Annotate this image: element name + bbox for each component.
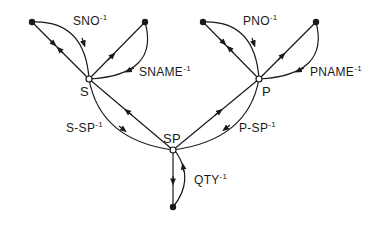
node-pno-value [200,19,206,25]
label-p-sp-inverse: P-SP-1 [239,121,276,134]
label-pname-inverse: PNAME-1 [310,65,362,78]
edge-s-sname-straight [89,22,145,79]
label-qty-inverse: QTY-1 [194,173,227,186]
node-pname-value [313,19,319,25]
edge-p-pname-straight [259,22,316,79]
node-sno-value [29,19,35,25]
label-pno-inverse: PNO-1 [243,14,278,27]
node-s [86,76,92,82]
label-sname-inverse: SNAME-1 [139,65,191,78]
edge-qty-inverse [173,152,185,207]
node-sp [170,147,176,153]
graph-canvas [0,0,383,227]
edge-p-pno-straight [203,22,259,79]
label-s-sp-inverse: S-SP-1 [66,121,103,134]
node-qty-value [170,204,176,210]
node-sname-value [142,19,148,25]
label-node-p: P [262,85,271,98]
label-node-s: S [80,85,89,98]
edge-sp-s-straight [89,79,173,150]
edge-s-sno-straight [32,22,89,79]
label-sno-inverse: SNO-1 [73,14,108,27]
label-node-sp: SP [163,132,181,145]
node-p [256,76,262,82]
edge-sp-p-straight [173,79,259,150]
